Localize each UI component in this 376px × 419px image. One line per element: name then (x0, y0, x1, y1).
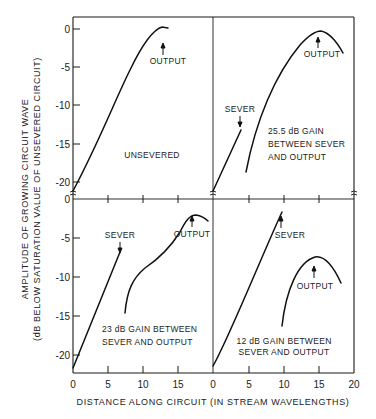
svg-text:-20: -20 (56, 350, 71, 361)
svg-text:-15: -15 (56, 311, 71, 322)
svg-text:5: 5 (246, 379, 252, 390)
bottom-left-before-sever-line (73, 252, 120, 368)
bottom-left-output-label: OUTPUT (174, 229, 211, 239)
y-ticks (73, 29, 80, 355)
svg-text:10: 10 (278, 379, 290, 390)
svg-text:0: 0 (64, 194, 70, 205)
y-axis-title-line2: (dB BELOW SATURATION VALUE OF UNSEVERED … (32, 57, 42, 341)
bottom-right-gain-label-line2: SEVER AND OUTPUT (239, 347, 330, 357)
top-right-gain-label-line2: BETWEEN SEVER (268, 139, 345, 149)
svg-text:0: 0 (70, 379, 76, 390)
svg-text:10: 10 (137, 379, 149, 390)
svg-text:-10: -10 (56, 272, 71, 283)
top-right-gain-label-line1: 25.5 dB GAIN (268, 126, 324, 136)
svg-text:15: 15 (313, 379, 325, 390)
top-right-sever-label: SEVER (225, 104, 255, 114)
y-axis-title-line1: AMPLITUDE OF GROWING CIRCUIT WAVE (20, 99, 30, 300)
arrow-down-icon (238, 116, 242, 127)
bottom-left-gain-label-line2: SEVER AND OUTPUT (102, 337, 193, 347)
svg-text:-5: -5 (61, 62, 70, 73)
svg-text:20: 20 (348, 379, 360, 390)
plot-frame (73, 17, 354, 373)
bottom-right-after-sever-curve (282, 257, 341, 326)
top-left-unsevered-label: UNSEVERED (124, 150, 180, 160)
top-right-gain-label-line3: AND OUTPUT (268, 152, 326, 162)
chart: 0 -5 -10 -15 -20 0 -5 -10 -15 -20 0 5 10… (0, 0, 376, 419)
svg-text:0: 0 (64, 24, 70, 35)
bottom-right-output-label: OUTPUT (297, 281, 334, 291)
arrow-up-icon (161, 43, 165, 55)
axis-break-marks (70, 191, 357, 195)
svg-text:15: 15 (172, 379, 184, 390)
top-right-before-sever-line (213, 130, 241, 191)
svg-text:-20: -20 (56, 177, 71, 188)
x-tick-labels: 0 5 10 15 0 5 10 15 20 (70, 379, 360, 390)
bottom-left-sever-label: SEVER (105, 230, 135, 240)
top-left-unsevered-curve (73, 27, 168, 191)
arrow-up-icon (190, 216, 194, 227)
svg-text:-10: -10 (56, 100, 71, 111)
bottom-left-gain-label-line1: 23 dB GAIN BETWEEN (102, 324, 197, 334)
arrow-up-icon (316, 37, 320, 48)
svg-text:0: 0 (210, 379, 216, 390)
top-left-output-label: OUTPUT (150, 56, 187, 66)
x-axis-title: DISTANCE ALONG CIRCUIT (IN STREAM WAVELE… (77, 397, 350, 407)
curves (73, 27, 343, 368)
svg-text:-5: -5 (61, 233, 70, 244)
bottom-right-sever-label: SEVER (275, 230, 305, 240)
y-tick-labels: 0 -5 -10 -15 -20 0 -5 -10 -15 -20 (56, 24, 71, 361)
annotations: OUTPUT UNSEVERED OUTPUT SEVER 25.5 dB GA… (102, 49, 345, 357)
arrow-up-icon (312, 266, 316, 278)
top-right-output-label: OUTPUT (304, 49, 341, 59)
svg-text:5: 5 (105, 379, 111, 390)
arrow-down-icon (118, 242, 122, 253)
svg-text:-15: -15 (56, 139, 71, 150)
bottom-right-gain-label-line1: 12 dB GAIN BETWEEN (236, 336, 331, 346)
